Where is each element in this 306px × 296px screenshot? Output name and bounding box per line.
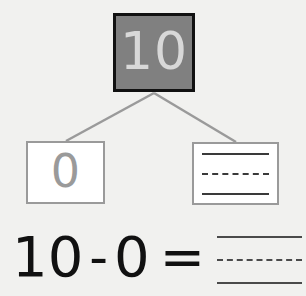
writing-line-solid-bottom — [202, 193, 269, 195]
connector-line-right — [154, 93, 236, 142]
equation-equals-sign: = — [150, 230, 209, 284]
answer-line-solid-top — [217, 236, 302, 238]
number-bond-part-left-value: 0 — [51, 148, 80, 194]
answer-line-solid-bottom — [217, 282, 302, 284]
answer-line-dashed-middle — [217, 259, 302, 261]
writing-line-solid-top — [202, 153, 269, 155]
equation-minuend: 10 — [12, 229, 83, 285]
number-bond-total-value: 10 — [120, 25, 188, 77]
writing-line-dashed-middle — [202, 173, 269, 175]
equation-minus-operator: - — [83, 231, 114, 283]
worksheet-canvas: 10 0 10 - 0 = — [0, 0, 306, 296]
connector-line-left — [66, 93, 154, 141]
equation-answer-writing-area[interactable] — [217, 232, 302, 288]
equation-subtrahend: 0 — [114, 229, 150, 285]
number-bond-part-right-box[interactable] — [192, 142, 279, 205]
equation-row: 10 - 0 = — [12, 228, 302, 292]
number-bond-total-box[interactable]: 10 — [113, 13, 195, 92]
number-bond-part-left-box[interactable]: 0 — [26, 141, 105, 204]
